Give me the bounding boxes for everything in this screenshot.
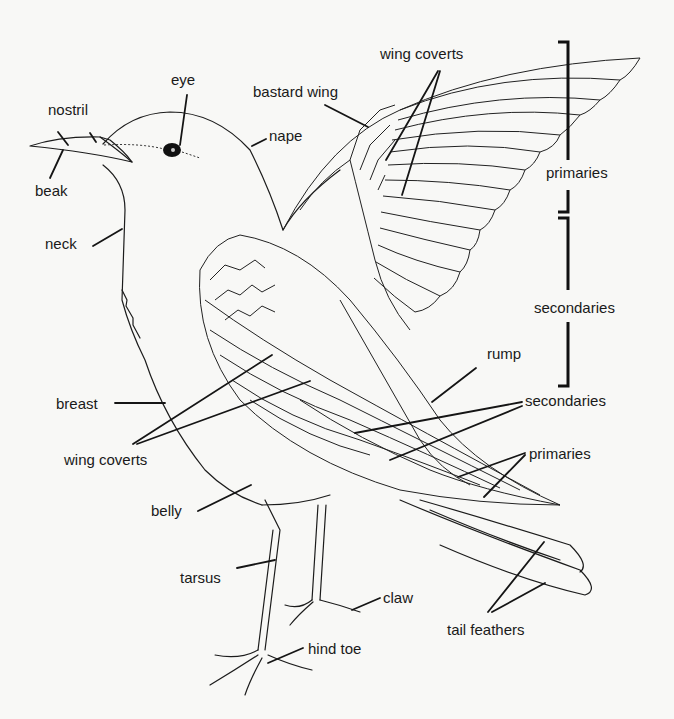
label-eye: eye [171, 72, 195, 87]
label-nostril: nostril [48, 102, 88, 117]
label-hind-toe: hind toe [308, 641, 361, 656]
label-wing-coverts-body: wing coverts [64, 452, 147, 467]
label-belly: belly [151, 503, 182, 518]
label-nape: nape [269, 128, 302, 143]
label-bastard-wing: bastard wing [253, 84, 338, 99]
label-primaries-body: primaries [529, 446, 591, 461]
bird-body-outline [30, 112, 591, 695]
bird-illustration [0, 0, 674, 719]
bracket-lines [558, 42, 568, 386]
label-secondaries-bracket: secondaries [534, 300, 615, 315]
label-secondaries-body: secondaries [525, 393, 606, 408]
label-breast: breast [56, 396, 98, 411]
label-claw: claw [383, 590, 413, 605]
label-wing-coverts-top: wing coverts [380, 46, 463, 61]
label-tail-feathers: tail feathers [447, 622, 525, 637]
label-beak: beak [35, 183, 68, 198]
label-neck: neck [45, 236, 77, 251]
label-rump: rump [487, 346, 521, 361]
bird-anatomy-diagram: eye nostril beak nape bastard wing wing … [0, 0, 674, 719]
label-tarsus: tarsus [180, 570, 221, 585]
label-primaries-bracket: primaries [546, 165, 608, 180]
